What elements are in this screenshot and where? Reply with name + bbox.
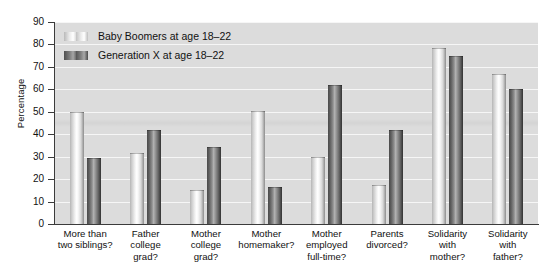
y-tick-label: 70 [0,62,44,72]
y-tick-mark [48,22,54,23]
y-tick-label: 60 [0,84,44,94]
x-axis-label-line: with [473,239,543,250]
y-tick-mark [48,134,54,135]
legend-item-baby-boomers: Baby Boomers at age 18–22 [64,28,294,45]
x-axis-labels: More thantwo siblings?Fathercollegegrad?… [55,228,538,280]
y-tick-label: 0 [0,219,44,229]
y-tick-label: 30 [0,152,44,162]
legend-swatch-icon-baby-boomers [64,32,88,41]
grouped-bar-chart: Percentage 0102030405060708090 Baby Boom… [0,0,547,280]
y-tick-label: 80 [0,39,44,49]
legend-item-generation-x: Generation X at age 18–22 [64,47,294,64]
y-tick-mark [48,157,54,158]
legend-label-baby-boomers: Baby Boomers at age 18–22 [98,31,231,42]
x-axis-spine [54,224,539,225]
bar-top-edge [509,89,523,90]
x-axis-label-line: Solidarity [473,228,543,239]
bar [509,89,523,224]
y-tick-mark [48,112,54,113]
y-tick-mark [48,67,54,68]
y-tick-mark [48,179,54,180]
y-tick-mark [48,89,54,90]
y-tick-label: 50 [0,107,44,117]
y-tick-label: 20 [0,174,44,184]
y-tick-label: 40 [0,129,44,139]
legend-swatch-icon-generation-x [64,51,88,60]
x-axis-label-line: full-time? [292,251,362,262]
x-axis-label: Solidaritywithfather? [473,228,543,262]
bar-top-edge [492,74,506,75]
y-tick-mark [48,224,54,225]
y-tick-mark [48,202,54,203]
y-tick-label: 10 [0,197,44,207]
x-axis-label-line: grad? [171,251,241,262]
y-tick-mark [48,44,54,45]
y-tick-label: 90 [0,17,44,27]
x-axis-label-line: father? [473,251,543,262]
chart-legend: Baby Boomers at age 18–22 Generation X a… [64,28,294,66]
legend-label-generation-x: Generation X at age 18–22 [98,50,224,61]
bar [492,74,506,224]
